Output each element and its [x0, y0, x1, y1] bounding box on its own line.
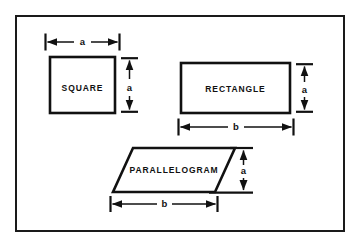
parallelogram-base-label: b [162, 198, 168, 209]
rectangle-width-label: b [233, 121, 239, 132]
shapes-diagram-svg: SQUARE a a [0, 0, 356, 241]
square-height-label: a [127, 82, 133, 93]
diagram-canvas: SQUARE a a [0, 0, 356, 241]
rectangle-label: RECTANGLE [205, 84, 265, 94]
rectangle-height-label: a [302, 84, 308, 95]
parallelogram-height-label: a [241, 165, 247, 176]
square-width-label: a [80, 36, 86, 47]
parallelogram-label: PARALLELOGRAM [130, 165, 219, 175]
square-label: SQUARE [62, 83, 104, 93]
